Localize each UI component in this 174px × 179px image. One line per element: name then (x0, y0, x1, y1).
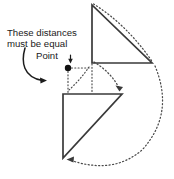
upper-right-triangle (92, 5, 152, 63)
lower-right-triangle (63, 94, 122, 158)
arrowhead-bottom-left-icon (67, 157, 75, 163)
annotation-arrowhead-icon (40, 78, 47, 84)
arc-small-near-point-icon (69, 67, 89, 90)
point-leader-arrowhead-icon (68, 59, 73, 64)
distance-note-line-2: must be equal (7, 38, 67, 49)
arc-large-right-rotation-icon (70, 66, 163, 166)
distance-note-line-1: These distances (7, 27, 77, 38)
geometry-diagram-canvas: These distances must be equal Point (0, 0, 174, 179)
diagram-svg: These distances must be equal Point (0, 0, 174, 179)
point-dot-marker (65, 65, 71, 71)
arc-top-hypotenuse-icon (94, 4, 152, 61)
point-label: Point (36, 50, 58, 61)
arc-apex-to-lower-right-icon (94, 62, 120, 89)
arrowhead-lower-right-icon (116, 86, 124, 92)
